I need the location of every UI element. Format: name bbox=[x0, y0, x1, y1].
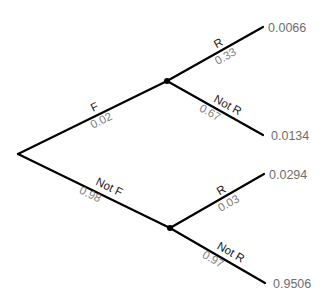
leaf-joint-f-r: 0.0066 bbox=[268, 21, 306, 35]
probability-tree: F 0.02 Not F 0.98 R 0.33 Not R 0.67 R 0.… bbox=[0, 0, 327, 302]
leaf-joint-f-not-r: 0.0134 bbox=[271, 129, 309, 143]
leaf-joint-not-f-not-r: 0.9506 bbox=[273, 277, 311, 291]
node-not-f bbox=[167, 225, 173, 231]
leaf-joint-not-f-r: 0.0294 bbox=[269, 168, 307, 182]
label-event-f-r: R bbox=[212, 36, 225, 51]
branch-not-f-r bbox=[170, 174, 264, 228]
node-f bbox=[164, 78, 170, 84]
label-event-f: F bbox=[89, 100, 101, 114]
label-prob-f: 0.02 bbox=[88, 110, 113, 131]
